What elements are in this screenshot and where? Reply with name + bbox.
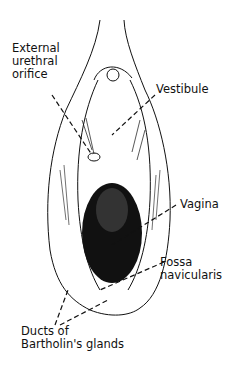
label-fossa-navicularis: Fossa navicularis	[160, 256, 222, 282]
label-external-urethral-orifice: External urethral orifice	[12, 42, 60, 81]
label-ducts-of-bartholins-glands: Ducts of Bartholin's glands	[21, 325, 124, 351]
label-vestibule: Vestibule	[156, 83, 209, 96]
label-vagina: Vagina	[180, 198, 219, 211]
